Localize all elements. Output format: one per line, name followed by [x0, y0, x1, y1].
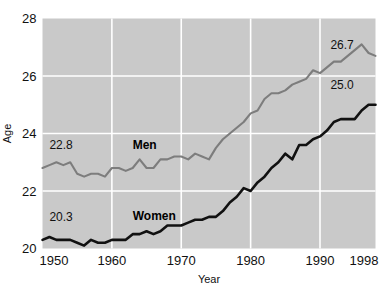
x-axis-title: Year	[198, 273, 221, 285]
women-end-value: 25.0	[330, 78, 354, 92]
y-axis-title: Age	[1, 124, 13, 144]
women-series-label: Women	[133, 209, 176, 223]
y-tick-label: 22	[22, 184, 36, 199]
y-tick-label: 20	[22, 241, 36, 256]
men-start-value: 22.8	[49, 138, 73, 152]
x-tick-label: 1990	[306, 253, 335, 268]
men-end-value: 26.7	[330, 38, 354, 52]
x-tick-label: 1980	[236, 253, 265, 268]
x-tick-label: 1960	[97, 253, 126, 268]
y-tick-label: 28	[22, 11, 36, 26]
x-tick-label: 1970	[167, 253, 196, 268]
y-tick-label: 24	[22, 126, 36, 141]
line-chart: 195019601970198019901998 2022242628 22.8…	[0, 0, 389, 291]
y-axis-tick-labels: 2022242628	[22, 11, 36, 256]
x-tick-label: 1950	[40, 253, 69, 268]
x-axis-tick-labels: 195019601970198019901998	[40, 253, 379, 268]
chart-canvas: 195019601970198019901998 2022242628 22.8…	[0, 0, 389, 291]
men-series-label: Men	[133, 138, 157, 152]
y-tick-label: 26	[22, 69, 36, 84]
x-tick-label: 1998	[350, 253, 379, 268]
women-start-value: 20.3	[49, 210, 73, 224]
